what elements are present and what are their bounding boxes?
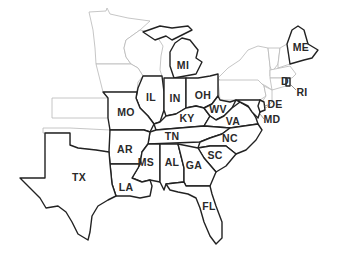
label-nc: NC [222, 132, 238, 144]
label-mo: MO [117, 106, 135, 118]
label-d: D [281, 75, 289, 87]
label-tn: TN [165, 130, 180, 142]
state-ia [96, 64, 143, 92]
eastern-us-map: ME MI IL IN OH D RI MO KY WV DE VA MD TN… [0, 0, 338, 256]
label-mi: MI [177, 59, 189, 71]
label-in: IN [169, 92, 180, 104]
label-ar: AR [117, 143, 133, 155]
label-al: AL [165, 156, 180, 168]
leader-ri [290, 84, 296, 90]
label-me: ME [293, 41, 309, 53]
label-tx: TX [72, 171, 86, 183]
label-la: LA [119, 181, 134, 193]
label-va: VA [226, 115, 241, 127]
label-wv: WV [209, 103, 227, 115]
state-fl [166, 182, 222, 244]
label-ri: RI [296, 86, 307, 98]
label-md: MD [264, 113, 281, 125]
label-sc: SC [207, 149, 222, 161]
state-de [258, 100, 265, 112]
label-fl: FL [202, 200, 216, 212]
label-ms: MS [138, 156, 154, 168]
label-ky: KY [179, 112, 194, 124]
label-de: DE [267, 98, 282, 110]
state-ks [52, 98, 108, 118]
label-ga: GA [186, 159, 202, 171]
label-oh: OH [195, 89, 211, 101]
state-pa [218, 80, 266, 100]
label-il: IL [146, 91, 156, 103]
